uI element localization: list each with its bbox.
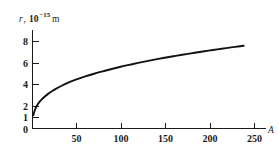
chart-figure: 8 6 4 2 1 0 50 100 150 200 250 A r , 10 … — [0, 0, 279, 149]
y-axis-title-separator: , — [24, 14, 26, 24]
y-axis-title-exponent: −15 — [40, 11, 51, 18]
y-tick-label-4: 4 — [23, 79, 28, 90]
y-tick-label-2: 2 — [23, 101, 28, 112]
y-tick-label-6: 6 — [23, 58, 28, 69]
x-tick-label-200: 200 — [203, 133, 218, 144]
x-tick-label-250: 250 — [247, 133, 262, 144]
y-tick-label-1: 1 — [23, 112, 28, 123]
x-tick-label-50: 50 — [72, 133, 82, 144]
x-axis-title: A — [267, 125, 274, 135]
nuclear-radius-curve — [33, 46, 243, 115]
y-axis-title: r , 10 −15 m — [19, 11, 60, 24]
y-axis-title-variable: r — [19, 14, 23, 24]
x-tick-label-150: 150 — [158, 133, 173, 144]
y-axis-title-mantissa: 10 — [29, 14, 39, 24]
x-axis-ticks — [77, 123, 255, 129]
y-axis-title-unit: m — [52, 14, 60, 24]
y-tick-label-8: 8 — [23, 36, 28, 47]
x-tick-label-100: 100 — [114, 133, 129, 144]
y-tick-label-0: 0 — [23, 124, 28, 135]
nuclear-radius-plot: 8 6 4 2 1 0 50 100 150 200 250 A r , 10 … — [0, 0, 279, 149]
